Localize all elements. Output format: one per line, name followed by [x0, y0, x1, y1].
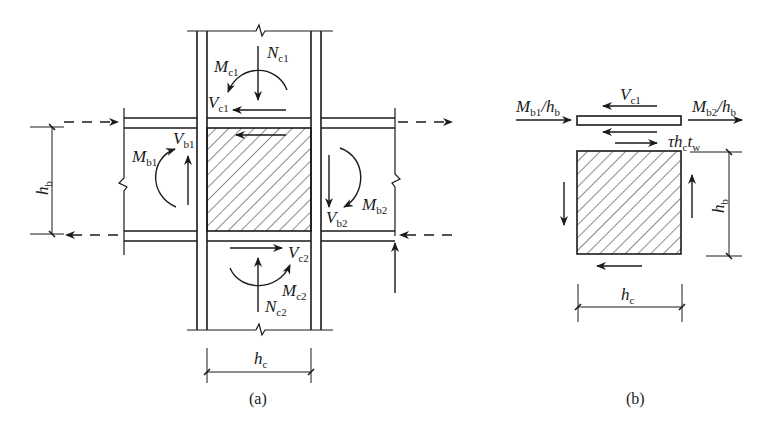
label-Vc1: Vc1	[208, 93, 229, 114]
label-hc-b: hc	[621, 285, 635, 306]
label-Mc2: Mc2	[281, 281, 307, 302]
beam-column-joint-figure: Nc1 Mc1 Vc1 Mb1 Vb1 Mb2 Vb2 Vc2 Mc2 Nc2 …	[0, 0, 763, 437]
dimension-hb-b	[690, 149, 742, 259]
panel-a: Nc1 Mc1 Vc1 Mb1 Vb1 Mb2 Vb2 Vc2 Mc2 Nc2 …	[30, 25, 452, 408]
panel-zone-hatch	[207, 128, 311, 231]
label-Vc2: Vc2	[288, 243, 309, 264]
label-Mb1-hb: Mb1/hb	[515, 97, 560, 118]
arrow-Mc2	[230, 265, 290, 286]
panel-b-hatch	[577, 151, 681, 254]
label-hb-b: hb	[709, 199, 730, 214]
label-hb: hb	[33, 181, 54, 196]
label-Nc1: Nc1	[266, 43, 289, 64]
panel-b: Vc1 Mb1/hb Mb2/hb τhctw hb hc (b)	[515, 85, 742, 408]
label-Vb2: Vb2	[326, 208, 347, 229]
caption-b: (b)	[626, 390, 645, 408]
arrow-Mb2	[340, 148, 361, 207]
caption-a: (a)	[249, 390, 267, 408]
label-Vb1: Vb1	[173, 129, 194, 150]
dimension-hb	[30, 124, 64, 237]
label-hc: hc	[254, 349, 268, 370]
label-Mb2: Mb2	[361, 195, 387, 216]
label-tau-hc-tw: τhctw	[668, 132, 700, 153]
label-Vc1-b: Vc1	[620, 85, 641, 106]
label-Mc1: Mc1	[213, 57, 239, 78]
arrow-Mb1	[156, 149, 176, 207]
label-Mb1: Mb1	[131, 147, 157, 168]
label-Mb2-hb: Mb2/hb	[691, 97, 736, 118]
label-Nc2: Nc2	[264, 297, 287, 318]
flange-strip	[577, 116, 681, 125]
